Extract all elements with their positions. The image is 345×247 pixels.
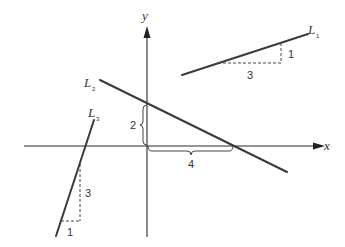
line-L1-subscript: 1 xyxy=(316,33,320,39)
y-axis: y xyxy=(140,8,151,237)
rise-brace xyxy=(140,105,147,145)
line-L3: L 3 3 1 xyxy=(56,105,100,238)
line-L2-rise-label: 2 xyxy=(130,119,136,131)
run-brace xyxy=(148,146,233,155)
line-L1-label: L xyxy=(307,22,315,37)
x-axis-label: x xyxy=(323,138,330,153)
y-axis-arrow-icon xyxy=(144,26,151,38)
line-L2-label: L xyxy=(83,75,91,90)
line-L1-run-label: 3 xyxy=(247,69,253,81)
line-L1: L 1 1 3 xyxy=(182,22,320,81)
coordinate-diagram: x y L 1 1 3 L 2 2 4 L 3 3 1 xyxy=(0,0,345,247)
line-L3-rise-label: 3 xyxy=(85,187,91,199)
line-L2-subscript: 2 xyxy=(92,86,96,92)
line-L1-rise-label: 1 xyxy=(288,48,294,60)
y-axis-label: y xyxy=(140,8,148,23)
line-L3-label: L xyxy=(87,105,95,120)
line-L3-run-label: 1 xyxy=(67,226,73,238)
line-L2: L 2 2 4 xyxy=(83,75,287,172)
line-L3-subscript: 3 xyxy=(96,116,100,122)
line-L2-run-label: 4 xyxy=(188,158,194,170)
